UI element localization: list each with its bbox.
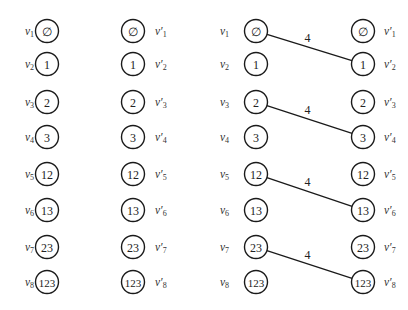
graph-node: 3v4 — [25, 126, 59, 149]
graph-node: 13v6 — [25, 199, 59, 222]
vertex-name-label: v4 — [220, 131, 229, 145]
node-set-label: 1 — [360, 58, 366, 72]
vertex-name-label: v′5 — [384, 168, 396, 182]
graph-node: 1v2 — [25, 53, 59, 76]
vertex-name-label: v3 — [25, 96, 34, 110]
node-set-label: 3 — [253, 131, 259, 145]
vertex-name-label: v3 — [220, 96, 229, 110]
node-set-label: 23 — [41, 241, 53, 255]
node-set-label: 3 — [130, 131, 136, 145]
edge-weight-label: 4 — [305, 103, 311, 117]
node-set-label: 123 — [248, 277, 265, 289]
edge-weight-label: 4 — [305, 31, 311, 45]
node-set-label: 23 — [357, 241, 369, 255]
node-set-label: 13 — [357, 204, 369, 218]
graph-node: 13v′6 — [122, 199, 167, 222]
vertex-name-label: v′2 — [384, 58, 396, 72]
vertex-name-label: v′8 — [155, 276, 167, 290]
node-set-label: 123 — [125, 277, 142, 289]
node-set-label: 12 — [250, 168, 262, 182]
graph-node: ∅v′1 — [352, 20, 396, 43]
vertex-name-label: v′2 — [155, 58, 167, 72]
graph-node: 23v′7 — [352, 236, 396, 259]
graph-node: 12v′5 — [122, 163, 167, 186]
vertex-name-label: v6 — [220, 204, 229, 218]
left-panel: ∅v11v22v33v412v513v623v7123v8∅v′11v′22v′… — [25, 20, 167, 294]
vertex-name-label: v8 — [25, 276, 34, 290]
vertex-name-label: v5 — [25, 168, 34, 182]
graph-node: 1v2 — [220, 53, 268, 76]
node-set-label: 3 — [360, 131, 366, 145]
vertex-name-label: v′6 — [384, 204, 396, 218]
node-set-label: 2 — [360, 96, 366, 110]
graph-node: 2v3 — [220, 91, 268, 114]
node-set-label: 2 — [44, 96, 50, 110]
graph-node: 23v′7 — [122, 236, 167, 259]
vertex-name-label: v8 — [220, 276, 229, 290]
node-set-label: ∅ — [42, 25, 52, 39]
graph-node: 3v′4 — [122, 126, 167, 149]
graph-node: 2v′3 — [352, 91, 396, 114]
graph-node: 12v5 — [220, 163, 268, 186]
node-set-label: 123 — [39, 277, 56, 289]
node-set-label: 13 — [41, 204, 53, 218]
vertex-name-label: v′1 — [155, 25, 167, 39]
graph-node: 123v′8 — [352, 271, 396, 294]
right-panel: 4444∅v11v22v33v412v513v623v7123v8∅v′11v′… — [220, 20, 396, 294]
vertex-name-label: v′4 — [155, 131, 167, 145]
node-set-label: 1 — [44, 58, 50, 72]
graph-node: 3v′4 — [352, 126, 396, 149]
graph-node: 23v7 — [25, 236, 59, 259]
node-set-label: ∅ — [251, 25, 261, 39]
node-set-label: 1 — [130, 58, 136, 72]
vertex-name-label: v′5 — [155, 168, 167, 182]
vertex-name-label: v6 — [25, 204, 34, 218]
vertex-name-label: v1 — [220, 25, 229, 39]
graph-node: 2v′3 — [122, 91, 167, 114]
vertex-name-label: v′3 — [384, 96, 396, 110]
vertex-name-label: v′3 — [155, 96, 167, 110]
vertex-name-label: v7 — [25, 241, 34, 255]
graph-node: 13v′6 — [352, 199, 396, 222]
node-set-label: 123 — [355, 277, 372, 289]
vertex-name-label: v5 — [220, 168, 229, 182]
graph-node: 12v′5 — [352, 163, 396, 186]
graph-node: 2v3 — [25, 91, 59, 114]
graph-node: 123v8 — [220, 271, 268, 294]
node-set-label: 2 — [130, 96, 136, 110]
graph-node: 13v6 — [220, 199, 268, 222]
vertex-name-label: v4 — [25, 131, 34, 145]
graph-node: 1v′2 — [352, 53, 396, 76]
vertex-name-label: v2 — [25, 58, 34, 72]
edge-weight-label: 4 — [305, 248, 311, 262]
node-set-label: 12 — [127, 168, 139, 182]
vertex-name-label: v′7 — [155, 241, 167, 255]
node-set-label: 12 — [357, 168, 369, 182]
vertex-name-label: v′8 — [384, 276, 396, 290]
graph-node: 3v4 — [220, 126, 268, 149]
vertex-name-label: v′1 — [384, 25, 396, 39]
vertex-name-label: v2 — [220, 58, 229, 72]
graph-node: ∅v1 — [25, 20, 59, 43]
vertex-name-label: v7 — [220, 241, 229, 255]
vertex-name-label: v1 — [25, 25, 34, 39]
bipartite-diagram: ∅v11v22v33v412v513v623v7123v8∅v′11v′22v′… — [0, 0, 408, 310]
graph-node: ∅v′1 — [122, 20, 167, 43]
edge-weight-label: 4 — [305, 175, 311, 189]
graph-node: 123v′8 — [122, 271, 167, 294]
graph-node: 23v7 — [220, 236, 268, 259]
node-set-label: 3 — [44, 131, 50, 145]
graph-node: ∅v1 — [220, 20, 268, 43]
node-set-label: ∅ — [358, 25, 368, 39]
vertex-name-label: v′6 — [155, 204, 167, 218]
node-set-label: ∅ — [128, 25, 138, 39]
node-set-label: 1 — [253, 58, 259, 72]
node-set-label: 12 — [41, 168, 53, 182]
node-set-label: 23 — [127, 241, 139, 255]
vertex-name-label: v′7 — [384, 241, 396, 255]
node-set-label: 2 — [253, 96, 259, 110]
graph-node: 123v8 — [25, 271, 59, 294]
node-set-label: 13 — [127, 204, 139, 218]
vertex-name-label: v′4 — [384, 131, 396, 145]
graph-node: 1v′2 — [122, 53, 167, 76]
